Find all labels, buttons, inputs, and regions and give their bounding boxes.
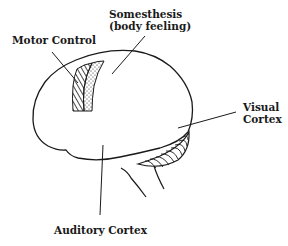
visual-cortex-line1: Visual (243, 101, 282, 113)
cerebrum-outline (33, 50, 193, 159)
visual-cortex-label: Visual Cortex (243, 101, 282, 125)
brain-stem (121, 166, 164, 197)
somesthesis-leader-line (112, 36, 145, 74)
somesthesis-subtitle: (body feeling) (109, 20, 191, 32)
auditory-leader-line (100, 145, 103, 215)
auditory-cortex-label: Auditory Cortex (54, 224, 147, 236)
motor-control-text: Motor Control (12, 34, 96, 46)
visual-cortex-line2: Cortex (243, 113, 282, 125)
somesthesis-title: Somesthesis (109, 8, 191, 20)
auditory-cortex-text: Auditory Cortex (54, 224, 147, 236)
visual-leader-line (178, 112, 236, 128)
motor-leader-line (52, 52, 78, 83)
motor-control-label: Motor Control (12, 34, 96, 46)
brain-diagram: Motor Control Somesthesis (body feeling)… (0, 0, 288, 246)
somesthesis-label: Somesthesis (body feeling) (109, 8, 191, 32)
